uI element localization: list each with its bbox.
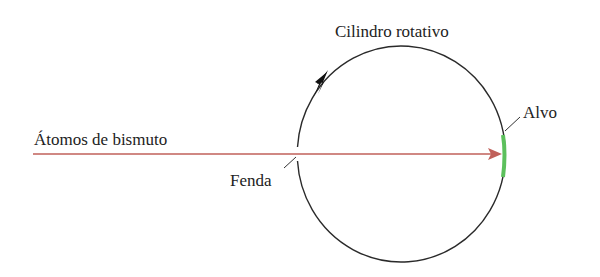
target-leader-line <box>505 117 520 131</box>
beam-label: Átomos de bismuto <box>34 131 167 148</box>
cylinder-label: Cilindro rotativo <box>335 23 449 40</box>
slit-leader-line <box>284 157 296 168</box>
rotation-arrow-icon <box>314 70 328 96</box>
diagram-canvas: Átomos de bismuto Fenda Cilindro rotativ… <box>0 0 600 277</box>
target-label: Alvo <box>523 104 557 121</box>
target-strip <box>503 135 505 177</box>
slit-label: Fenda <box>230 172 272 189</box>
beam-arrow <box>33 148 502 160</box>
